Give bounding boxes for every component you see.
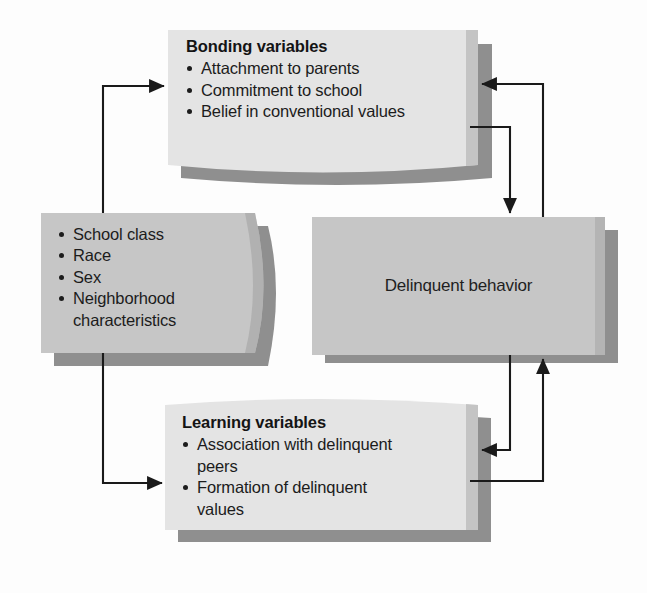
learning-variables-title: Learning variables [182,412,472,433]
attributes-to-bonding-arrow [103,86,164,213]
list-item: Race [58,245,258,266]
learning-variables-list: Association with delinquent peers Format… [182,434,472,520]
list-item: Belief in conventional values [186,101,476,122]
background-attributes-list: School class Race Sex Neighborhood chara… [58,224,258,331]
list-item: Sex [58,267,258,288]
attributes-to-learning-arrow [103,353,162,483]
list-item: Commitment to school [186,80,476,101]
list-item: Association with delinquent peers [182,434,472,477]
list-item: Neighborhood characteristics [58,288,258,331]
bonding-variables-list: Attachment to parents Commitment to scho… [186,58,476,122]
list-item: Formation of delinquent values [182,477,472,520]
list-item: School class [58,224,258,245]
delinquent-behavior-content: Delinquent behavior [312,217,605,355]
diagram-canvas: Bonding variables Attachment to parents … [0,0,647,593]
learning-variables-content: Learning variables Association with deli… [182,412,472,520]
bonding-variables-content: Bonding variables Attachment to parents … [186,36,476,123]
list-item: Attachment to parents [186,58,476,79]
delinquent-behavior-label: Delinquent behavior [385,275,532,297]
background-attributes-content: School class Race Sex Neighborhood chara… [58,224,258,331]
bonding-variables-title: Bonding variables [186,36,476,57]
